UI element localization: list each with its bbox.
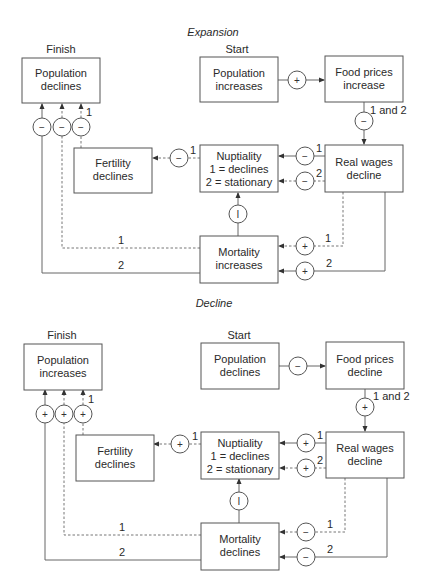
panel-title: Decline bbox=[196, 297, 233, 309]
box-population-start: Population declines bbox=[201, 343, 279, 389]
svg-text:+: + bbox=[362, 402, 368, 413]
svg-text:Real wages: Real wages bbox=[335, 156, 393, 168]
svg-text:−: − bbox=[303, 527, 309, 538]
sign-wages-to-mort-2: + bbox=[296, 262, 314, 280]
svg-text:Population: Population bbox=[37, 354, 89, 366]
svg-text:1 = declines: 1 = declines bbox=[209, 163, 269, 175]
svg-text:increases: increases bbox=[39, 367, 87, 379]
sign-finish-b: − bbox=[53, 118, 71, 136]
sign-wages-to-nupt-1: − bbox=[296, 147, 314, 165]
sign-nupt-to-fert: − bbox=[170, 149, 188, 167]
box-food-prices: Food prices decline bbox=[326, 342, 404, 389]
path-label: 1 bbox=[192, 430, 198, 442]
svg-text:Nuptiality: Nuptiality bbox=[217, 437, 263, 449]
svg-text:declines: declines bbox=[95, 458, 136, 470]
svg-text:Fertility: Fertility bbox=[97, 445, 133, 457]
sign-pop-to-food: + bbox=[288, 71, 306, 89]
path-label: 1 bbox=[119, 521, 125, 533]
finish-label: Finish bbox=[46, 43, 75, 55]
svg-text:decline: decline bbox=[348, 366, 383, 378]
sign-wages-to-mort-2: − bbox=[297, 548, 315, 566]
path-label: 2 bbox=[317, 454, 323, 466]
svg-text:Population: Population bbox=[213, 67, 265, 79]
path-label: 1 bbox=[316, 142, 322, 154]
sign-mort-to-nupt: I bbox=[229, 205, 247, 223]
svg-text:−: − bbox=[39, 122, 45, 133]
svg-text:Food prices: Food prices bbox=[336, 353, 394, 365]
path-label: 1 bbox=[325, 232, 331, 244]
sign-finish-c: + bbox=[74, 405, 92, 423]
box-fertility: Fertility declines bbox=[76, 435, 154, 481]
box-mortality: Mortality increases bbox=[200, 236, 278, 283]
svg-text:+: + bbox=[42, 409, 48, 420]
box-population-finish: Population declines bbox=[22, 58, 100, 103]
path-label: 1 and 2 bbox=[373, 390, 410, 402]
svg-text:declines: declines bbox=[220, 546, 261, 558]
path-label: 1 bbox=[317, 429, 323, 441]
svg-text:increase: increase bbox=[343, 79, 385, 91]
finish-label: Finish bbox=[47, 329, 76, 341]
svg-text:−: − bbox=[59, 122, 65, 133]
svg-text:Nuptiality: Nuptiality bbox=[216, 150, 262, 162]
svg-text:+: + bbox=[294, 75, 300, 86]
sign-wages-to-nupt-2: − bbox=[296, 172, 314, 190]
box-mortality: Mortality declines bbox=[201, 523, 279, 570]
svg-text:Population: Population bbox=[214, 353, 266, 365]
box-fertility: Fertility declines bbox=[74, 148, 152, 193]
panel-title: Expansion bbox=[187, 26, 238, 38]
sign-finish-a: + bbox=[36, 405, 54, 423]
sign-pop-to-food: − bbox=[289, 357, 307, 375]
svg-text:+: + bbox=[177, 439, 183, 450]
svg-text:+: + bbox=[80, 409, 86, 420]
sign-finish-b: + bbox=[55, 405, 73, 423]
svg-text:I: I bbox=[237, 209, 240, 220]
decline-panel: Decline Finish Start Population increase… bbox=[24, 297, 410, 570]
svg-text:−: − bbox=[176, 153, 182, 164]
svg-text:−: − bbox=[78, 122, 84, 133]
svg-text:−: − bbox=[295, 361, 301, 372]
svg-text:declines: declines bbox=[93, 170, 134, 182]
svg-text:Mortality: Mortality bbox=[218, 246, 260, 258]
svg-text:+: + bbox=[302, 241, 308, 252]
svg-text:Real wages: Real wages bbox=[336, 442, 394, 454]
path-label: 1 bbox=[88, 393, 94, 405]
svg-text:2 = stationary: 2 = stationary bbox=[207, 463, 274, 475]
svg-text:decline: decline bbox=[348, 455, 383, 467]
sign-mort-to-nupt: I bbox=[230, 492, 248, 510]
box-population-start: Population increases bbox=[200, 57, 278, 102]
svg-text:−: − bbox=[303, 552, 309, 563]
box-nuptiality: Nuptiality 1 = declines 2 = stationary bbox=[201, 432, 279, 479]
path-label: 2 bbox=[326, 257, 332, 269]
svg-text:Mortality: Mortality bbox=[219, 533, 261, 545]
sign-finish-a: − bbox=[33, 118, 51, 136]
svg-text:I: I bbox=[238, 496, 241, 507]
connector bbox=[315, 478, 387, 557]
svg-text:−: − bbox=[361, 116, 367, 127]
path-label: 2 bbox=[119, 546, 125, 558]
svg-text:declines: declines bbox=[220, 366, 261, 378]
path-label: 2 bbox=[316, 167, 322, 179]
svg-text:−: − bbox=[302, 151, 308, 162]
svg-text:Food prices: Food prices bbox=[335, 66, 393, 78]
path-label: 2 bbox=[327, 543, 333, 555]
svg-text:2 = stationary: 2 = stationary bbox=[206, 176, 273, 188]
svg-text:+: + bbox=[61, 409, 67, 420]
svg-text:increases: increases bbox=[215, 80, 263, 92]
sign-wages-to-nupt-1: + bbox=[297, 434, 315, 452]
svg-text:decline: decline bbox=[347, 169, 382, 181]
sign-wages-to-nupt-2: + bbox=[297, 459, 315, 477]
path-label: 2 bbox=[118, 259, 124, 271]
svg-text:+: + bbox=[302, 266, 308, 277]
path-label: 1 bbox=[86, 106, 92, 118]
box-nuptiality: Nuptiality 1 = declines 2 = stationary bbox=[200, 145, 278, 192]
box-real-wages: Real wages decline bbox=[326, 432, 404, 478]
svg-text:Population: Population bbox=[35, 67, 87, 79]
path-label: 1 bbox=[118, 234, 124, 246]
svg-text:−: − bbox=[302, 176, 308, 187]
expansion-panel: Expansion Finish Start bbox=[22, 26, 407, 283]
svg-text:+: + bbox=[303, 463, 309, 474]
box-population-finish: Population increases bbox=[24, 344, 102, 390]
sign-food-to-wages: + bbox=[356, 398, 374, 416]
start-label: Start bbox=[225, 43, 248, 55]
svg-text:Fertility: Fertility bbox=[95, 157, 131, 169]
